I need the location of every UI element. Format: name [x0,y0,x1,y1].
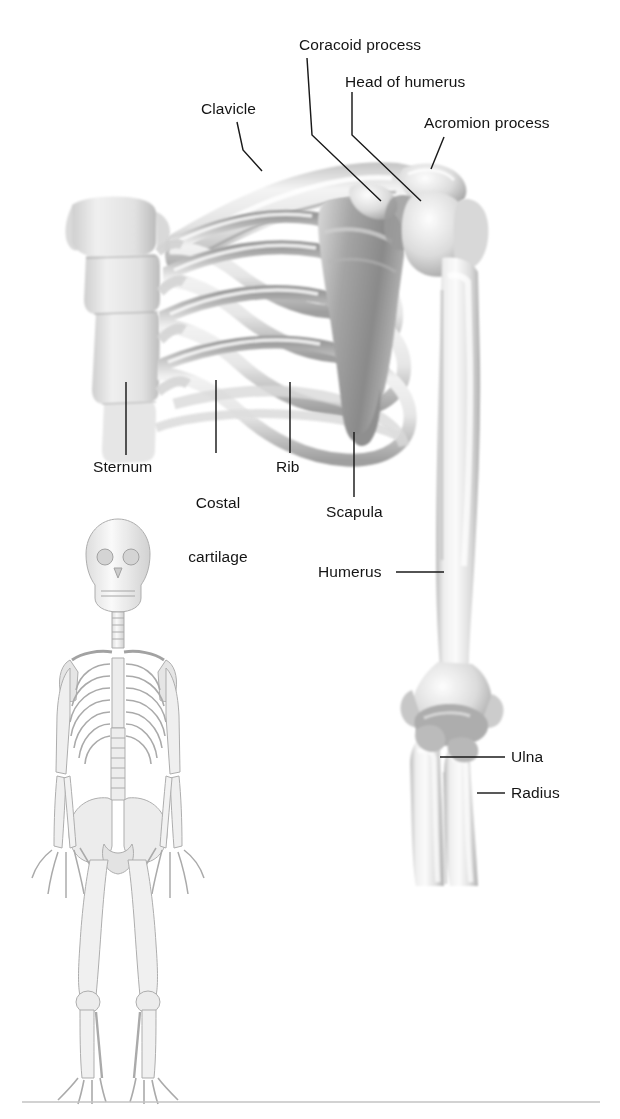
anatomy-figure: Coracoid process Head of humerus Acromio… [0,0,620,1119]
label-coracoid-process: Coracoid process [299,36,421,54]
label-humerus: Humerus [318,563,382,581]
label-acromion-process: Acromion process [424,114,550,132]
leader-acromion-process [431,137,444,169]
label-sternum: Sternum [93,458,152,476]
label-ulna: Ulna [511,748,543,766]
label-scapula: Scapula [326,503,383,521]
whole-skeleton-inset [32,519,204,1104]
illustration-canvas [0,0,620,1119]
label-clavicle: Clavicle [201,100,256,118]
forearm-bones [410,725,478,886]
label-rib: Rib [276,458,300,476]
label-radius: Radius [511,784,560,802]
label-costal-cartilage-line2: cartilage [181,548,255,566]
humerus-bone [400,192,503,746]
label-costal-cartilage-line1: Costal [181,494,255,512]
sternum-bone [65,196,170,463]
leader-clavicle [237,122,262,171]
label-costal-cartilage: Costal cartilage [181,458,255,602]
label-head-of-humerus: Head of humerus [345,73,465,91]
